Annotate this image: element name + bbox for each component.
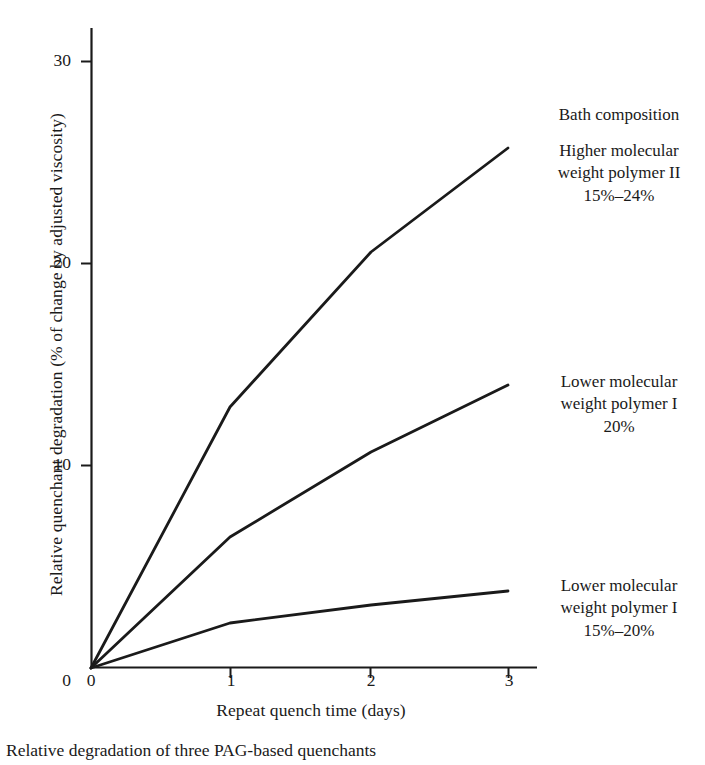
annotation-line-3: 15%–20% [536, 620, 702, 642]
figure-caption: Relative degradation of three PAG-based … [6, 740, 705, 765]
annotation-line-1: Higher molecular [536, 140, 702, 162]
y-tick-label-0: 0 [27, 672, 71, 690]
x-axis-title: Repeat quench time (days) [91, 700, 531, 721]
chart-figure: Relative quenchant degradation (% of cha… [0, 0, 705, 765]
x-tick-label-3: 3 [494, 672, 524, 690]
annotation-series-lower-mw-polymer-i-15-20: Lower molecular weight polymer I 15%–20% [536, 575, 702, 642]
series-line-higher-mw-polymer-ii [91, 148, 508, 668]
x-tick-label-0: 0 [76, 672, 106, 690]
annotation-line-3: 20% [536, 416, 702, 438]
y-tick-label-20: 20 [27, 254, 71, 272]
annotation-heading-text: Bath composition [536, 104, 702, 126]
y-tick-label-10: 10 [27, 456, 71, 474]
annotation-line-2: weight polymer I [536, 393, 702, 415]
annotation-line-2: weight polymer II [536, 162, 702, 184]
y-tick-marks [81, 62, 91, 466]
series-line-lower-mw-polymer-i-15-20 [91, 591, 508, 668]
y-tick-label-30: 30 [27, 52, 71, 70]
annotation-series-higher-mw-polymer-ii: Higher molecular weight polymer II 15%–2… [536, 140, 702, 207]
annotation-line-3: 15%–24% [536, 185, 702, 207]
x-tick-label-1: 1 [216, 672, 246, 690]
annotation-line-1: Lower molecular [536, 371, 702, 393]
y-axis-title: Relative quenchant degradation (% of cha… [46, 35, 67, 675]
series-line-lower-mw-polymer-i-20 [91, 385, 508, 668]
x-tick-label-2: 2 [356, 672, 386, 690]
annotation-bath-composition-heading: Bath composition [536, 104, 702, 126]
annotation-line-2: weight polymer I [536, 597, 702, 619]
annotation-series-lower-mw-polymer-i-20: Lower molecular weight polymer I 20% [536, 371, 702, 438]
annotation-line-1: Lower molecular [536, 575, 702, 597]
